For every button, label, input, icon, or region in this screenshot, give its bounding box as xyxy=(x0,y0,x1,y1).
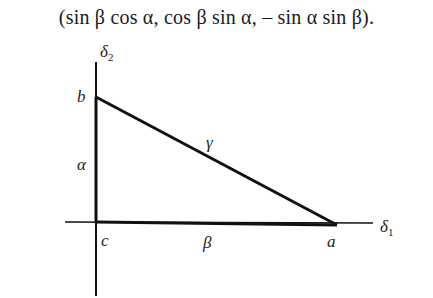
vertex-a-label: a xyxy=(327,232,336,251)
triangle-diagram: δ2 δ1 b c a α β γ xyxy=(0,0,433,298)
side-alpha-label: α xyxy=(77,155,87,174)
vertex-c-label: c xyxy=(101,231,109,250)
side-gamma-label: γ xyxy=(206,133,214,152)
delta1-label: δ1 xyxy=(380,217,393,238)
side-gamma xyxy=(96,97,337,225)
side-beta-label: β xyxy=(202,233,212,252)
delta2-label: δ2 xyxy=(100,42,113,63)
vertex-b-label: b xyxy=(77,87,86,106)
